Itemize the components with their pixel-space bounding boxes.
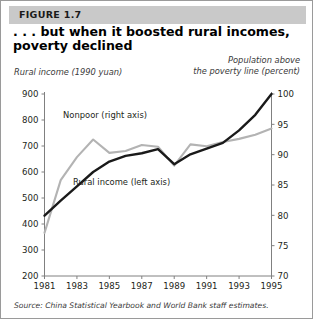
right-axis-caption: Population above the poverty line (perce…	[193, 55, 300, 76]
line-chart: 2003004005006007008009007075808590951001…	[1, 85, 313, 291]
x-axis-tick-label: 1983	[66, 281, 88, 291]
x-axis-tick-label: 1989	[163, 281, 185, 291]
right-axis-tick-label: 90	[278, 150, 289, 160]
source-prefix: Source:	[14, 301, 43, 310]
x-axis-tick-label: 1981	[34, 281, 56, 291]
right-axis-tick-label: 85	[278, 180, 289, 190]
chart-plot-area: 2003004005006007008009007075808590951001…	[1, 85, 313, 291]
right-axis-tick-label: 80	[278, 211, 289, 221]
left-axis-tick-label: 800	[22, 115, 38, 125]
right-axis-tick-label: 75	[278, 241, 289, 251]
left-axis-tick-label: 600	[22, 167, 38, 177]
x-axis-tick-label: 1985	[98, 281, 120, 291]
figure-title: . . . but when it boosted rural incomes,…	[13, 25, 299, 53]
left-axis-caption: Rural income (1990 yuan)	[14, 67, 122, 78]
figure-title-line-1: . . . but when it boosted rural incomes,	[13, 25, 299, 39]
figure-card: FIGURE 1.7 . . . but when it boosted rur…	[0, 0, 313, 319]
left-axis-tick-label: 400	[22, 219, 38, 229]
figure-title-line-2: poverty declined	[13, 39, 299, 53]
left-axis-tick-label: 900	[22, 89, 38, 99]
right-axis-caption-line-1: Population above	[193, 55, 300, 66]
source-publication: China Statistical Yearbook	[45, 301, 144, 310]
x-axis-tick-label: 1995	[261, 281, 283, 291]
source-suffix: and World Bank staff estimates.	[146, 301, 268, 310]
right-axis-caption-line-2: the poverty line (percent)	[193, 66, 300, 77]
x-axis-tick-label: 1991	[196, 281, 218, 291]
nonpoor-series-label: Nonpoor (right axis)	[63, 110, 147, 120]
x-axis-tick-label: 1993	[228, 281, 250, 291]
figure-header-band: FIGURE 1.7	[9, 6, 306, 24]
left-axis-tick-label: 500	[22, 193, 38, 203]
right-axis-tick-label: 100	[278, 89, 294, 99]
left-axis-tick-label: 300	[22, 245, 38, 255]
rural-income-series-label: Rural income (left axis)	[73, 177, 170, 187]
figure-number-label: FIGURE 1.7	[19, 9, 81, 20]
source-note: Source: China Statistical Yearbook and W…	[14, 301, 269, 310]
right-axis-tick-label: 95	[278, 120, 289, 130]
x-axis-tick-label: 1987	[131, 281, 153, 291]
left-axis-tick-label: 700	[22, 141, 38, 151]
